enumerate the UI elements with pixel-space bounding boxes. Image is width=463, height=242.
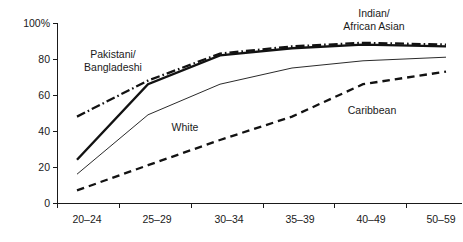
x-tick-label-35-39: 35–39 — [285, 213, 314, 225]
annotation-pakistani-line1: Pakistani/ — [90, 48, 136, 60]
x-tick-label-30-34: 30–34 — [214, 213, 243, 225]
y-tick-label-0: 0 — [44, 197, 50, 209]
y-tick-label-100: 100% — [23, 17, 50, 29]
annotation-caribbean: Caribbean — [348, 104, 397, 116]
y-axis-ticks — [53, 24, 58, 204]
x-tick-label-50-59: 50–59 — [426, 213, 455, 225]
x-tick-label-40-49: 40–49 — [356, 213, 385, 225]
x-axis: 20–24 25–29 30–34 35–39 40–49 50–59 — [58, 204, 463, 226]
line-chart: 0 20 40 60 80 100% 20–24 25–29 30–34 35–… — [0, 0, 463, 242]
x-axis-ticks — [58, 204, 407, 209]
x-tick-label-20-24: 20–24 — [72, 213, 101, 225]
annotation-indian-line2: African Asian — [343, 20, 404, 32]
series-line-caribbean — [77, 72, 446, 191]
annotation-indian-line1: Indian/ — [358, 7, 390, 19]
y-tick-label-20: 20 — [38, 161, 50, 173]
y-tick-label-60: 60 — [38, 89, 50, 101]
x-tick-label-25-29: 25–29 — [142, 213, 171, 225]
y-tick-label-80: 80 — [38, 53, 50, 65]
annotation-pakistani-line2: Bangladeshi — [84, 61, 142, 73]
y-axis: 0 20 40 60 80 100% — [23, 17, 57, 209]
y-tick-label-40: 40 — [38, 125, 50, 137]
annotation-white: White — [172, 121, 199, 133]
chart-container: 0 20 40 60 80 100% 20–24 25–29 30–34 35–… — [0, 0, 463, 242]
series-annotations: Pakistani/ Bangladeshi Indian/ African A… — [84, 7, 405, 133]
